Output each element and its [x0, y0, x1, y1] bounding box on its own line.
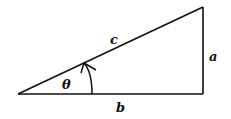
side-c-hypotenuse [18, 7, 203, 94]
label-b: b [116, 100, 125, 115]
triangle [18, 7, 203, 94]
right-triangle-diagram: c a b θ [0, 0, 231, 119]
label-a: a [209, 49, 217, 64]
label-theta: θ [62, 77, 71, 92]
label-c: c [110, 32, 118, 47]
angle-arc-arrow-icon [81, 63, 96, 94]
